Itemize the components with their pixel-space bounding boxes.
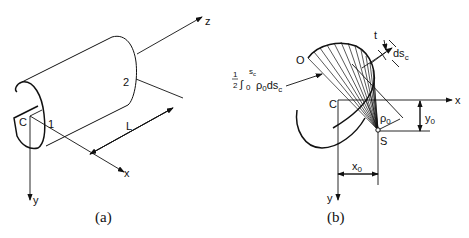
point-2-label: 2 — [123, 76, 129, 88]
centroid-b-label: C — [329, 98, 337, 110]
svg-text:∫: ∫ — [239, 78, 244, 91]
y-axis-label: y — [33, 194, 39, 206]
caption-b: (b) — [327, 209, 345, 226]
length-label: L — [126, 120, 132, 132]
thickness-label: t — [374, 29, 377, 41]
shear-center-point — [376, 128, 380, 132]
z-axis-label: z — [205, 15, 211, 27]
svg-text:0: 0 — [246, 83, 251, 92]
z-axis-line — [137, 17, 202, 54]
integrand: ρ0dsc — [256, 79, 282, 94]
origin-label: O — [296, 54, 305, 66]
y-axis-b-label: y — [327, 192, 333, 204]
integral-expression: 1 2 ∫ sc 0 ρ0dsc — [232, 67, 282, 94]
figure-a-labels: z x y C 1 2 L (a) — [19, 15, 211, 226]
shear-center-label: S — [380, 135, 387, 147]
svg-text:1: 1 — [233, 70, 238, 79]
figure-canvas: z x y C 1 2 L (a) — [0, 0, 469, 238]
svg-text:2: 2 — [233, 81, 238, 90]
x0-label: x0 — [352, 160, 363, 174]
y0-label: y0 — [425, 112, 436, 126]
ds-label: dsc — [393, 47, 409, 62]
caption-a: (a) — [95, 209, 112, 226]
x-axis-b-label: x — [455, 94, 461, 106]
point-1-label: 1 — [48, 118, 54, 130]
x-axis-line — [30, 116, 124, 172]
rho0-label: ρ0 — [380, 112, 391, 126]
centroid-label: C — [19, 116, 27, 128]
figure-a-axes — [30, 17, 202, 200]
figure-a-cylinder — [14, 36, 137, 148]
figure-b-labels: O t dsc 1 2 ∫ sc 0 ρ0dsc C x y S ρ0 y0 x… — [232, 29, 461, 226]
x-axis-label: x — [124, 167, 130, 179]
integral-upper: sc — [249, 67, 256, 77]
